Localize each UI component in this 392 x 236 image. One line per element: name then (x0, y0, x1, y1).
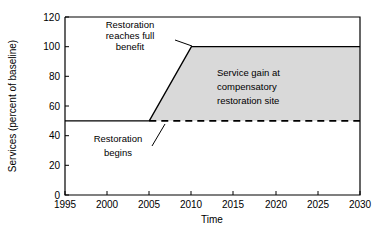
annotation-service-gain-line-1: Service gain at (217, 67, 280, 78)
y-tick-label-60: 60 (49, 101, 61, 112)
x-tick-label-2020: 2020 (265, 199, 288, 210)
y-tick-label-80: 80 (49, 71, 61, 82)
y-axis-tick-labels: 0 20 40 60 80 100 120 (43, 12, 60, 201)
x-axis-tick-labels: 1995 2000 2005 2010 2015 2020 2025 2030 (54, 199, 372, 210)
annotation-full-benefit-line-1: Restoration (106, 19, 155, 30)
annotation-service-gain-line-3: restoration site (217, 95, 279, 106)
chart-screenshot: 0 20 40 60 80 100 120 1995 2000 2005 201… (0, 0, 392, 236)
y-tick-label-100: 100 (43, 41, 60, 52)
x-tick-label-1995: 1995 (54, 199, 77, 210)
x-tick-label-2005: 2005 (138, 199, 161, 210)
x-tick-label-2025: 2025 (307, 199, 330, 210)
y-tick-label-20: 20 (49, 160, 61, 171)
y-tick-label-40: 40 (49, 130, 61, 141)
annotation-full-benefit-line-2: reaches full (106, 30, 155, 41)
annotation-begins-line-1: Restoration (94, 133, 143, 144)
services-restoration-chart: 0 20 40 60 80 100 120 1995 2000 2005 201… (0, 0, 392, 236)
annotation-begins-line-2: begins (104, 147, 132, 158)
y-tick-label-120: 120 (43, 12, 60, 23)
annotation-service-gain-line-2: compensatory (217, 81, 277, 92)
x-tick-label-2015: 2015 (222, 199, 245, 210)
annotation-service-gain: Service gain at compensatory restoration… (217, 67, 280, 106)
x-tick-label-2030: 2030 (349, 199, 372, 210)
annotation-full-benefit-line-3: benefit (116, 41, 145, 52)
x-tick-label-2000: 2000 (96, 199, 119, 210)
x-axis-title: Time (201, 214, 223, 225)
x-tick-label-2010: 2010 (180, 199, 203, 210)
y-axis-title: Services (percent of baseline) (7, 40, 18, 172)
